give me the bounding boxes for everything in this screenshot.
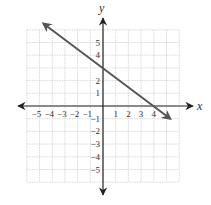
x-tick-label: −4 (44, 109, 54, 119)
x-tick-label: −5 (32, 109, 42, 119)
y-tick-label: 5 (96, 38, 101, 48)
x-axis-label: x (196, 99, 203, 113)
plotted-line (43, 23, 170, 118)
x-tick-label: 1 (113, 109, 118, 119)
x-tick-label: 3 (139, 109, 144, 119)
x-tick-label: −3 (57, 109, 67, 119)
y-tick-label: −3 (90, 139, 100, 149)
x-tick-label: 4 (152, 109, 157, 119)
y-tick-label: 1 (96, 88, 101, 98)
y-tick-label: −2 (90, 126, 100, 136)
y-tick-label: −4 (90, 152, 100, 162)
x-tick-label: 2 (126, 109, 131, 119)
coordinate-plane: −5−4−3−2−112345421−1−2−3−4−5 x y (0, 0, 211, 205)
y-tick-label: 4 (96, 50, 101, 60)
data-line (43, 23, 170, 118)
x-tick-label: −2 (70, 109, 80, 119)
y-tick-label: −5 (90, 165, 100, 175)
y-axis-label: y (98, 1, 105, 15)
y-tick-label: −1 (90, 114, 100, 124)
y-tick-label: 2 (96, 76, 101, 86)
